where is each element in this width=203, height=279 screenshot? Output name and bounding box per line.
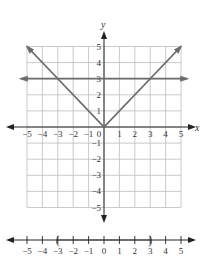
number-line-tick-label: 0 — [102, 246, 107, 256]
x-tick-label: 1 — [117, 129, 122, 139]
open-paren-right: ) — [148, 233, 152, 247]
x-tick-label: 4 — [163, 129, 168, 139]
y-axis-label: y — [100, 19, 106, 30]
x-axis-left-arrow-icon — [6, 124, 14, 130]
open-paren-left: ( — [56, 233, 60, 247]
number-line-right-arrow-icon — [188, 237, 196, 243]
coordinate-plane-svg: −5−4−3−2−101234512345−1−2−3−4−5 x y −5−4… — [0, 0, 203, 279]
y-tick-label: 2 — [97, 90, 102, 100]
number-line-tick-label: 1 — [117, 246, 122, 256]
number-line-tick-label: −2 — [68, 246, 78, 256]
y-tick-label: −1 — [91, 138, 101, 148]
y-tick-label: −3 — [91, 170, 101, 180]
x-tick-label: 3 — [148, 129, 153, 139]
number-line-tick-label: −1 — [84, 246, 94, 256]
x-tick-label: −4 — [38, 129, 48, 139]
number-line-tick-label: −4 — [38, 246, 48, 256]
number-line-left-arrow-icon — [6, 237, 14, 243]
y-tick-label: 1 — [97, 106, 102, 116]
x-tick-label: 5 — [179, 129, 184, 139]
y-tick-label: −2 — [91, 154, 101, 164]
x-tick-label: −2 — [68, 129, 78, 139]
y-tick-label: 4 — [97, 58, 102, 68]
graph-arrow-icon — [19, 76, 28, 82]
x-axis-label: x — [194, 122, 200, 133]
x-tick-label: −3 — [53, 129, 63, 139]
y-tick-label: −5 — [91, 203, 101, 213]
number-line: −5−4−3−2−1012345() — [6, 233, 196, 256]
number-line-tick-label: 4 — [163, 246, 168, 256]
x-tick-label: 2 — [133, 129, 138, 139]
number-line-tick-label: −5 — [22, 246, 32, 256]
graph-figure: −5−4−3−2−101234512345−1−2−3−4−5 x y −5−4… — [0, 0, 203, 279]
number-line-tick-label: 3 — [148, 246, 153, 256]
number-line-tick-label: 2 — [133, 246, 138, 256]
number-line-tick-label: −3 — [53, 246, 63, 256]
y-tick-label: −4 — [91, 186, 101, 196]
y-tick-label: 5 — [97, 42, 102, 52]
graph-arrow-icon — [180, 76, 189, 82]
x-tick-label: −5 — [22, 129, 32, 139]
y-axis-up-arrow-icon — [101, 31, 107, 39]
y-axis-down-arrow-icon — [101, 215, 107, 223]
number-line-tick-label: 5 — [179, 246, 184, 256]
